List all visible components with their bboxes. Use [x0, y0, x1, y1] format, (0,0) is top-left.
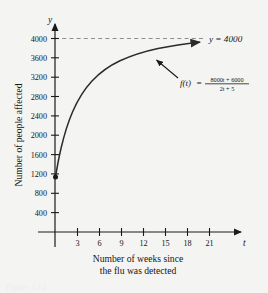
figure-container: 4000 3600 3200 2800 2400 2000 1600 1200 …: [0, 0, 268, 293]
figure-caption: Figure 4.12: [6, 283, 46, 292]
chart-canvas: 4000 3600 3200 2800 2400 2000 1600 1200 …: [0, 0, 268, 293]
y-tick-label-2800: 2800: [31, 93, 47, 102]
y-tick-label-1200: 1200: [31, 170, 47, 179]
y-tick-label-800: 800: [35, 189, 47, 198]
x-axis-title-line2: the flu was detected: [100, 265, 177, 276]
x-tick-label-9: 9: [119, 239, 123, 248]
x-tick-label-21: 21: [205, 239, 213, 248]
initial-point-marker: [53, 174, 58, 179]
y-tick-label-3600: 3600: [31, 54, 47, 63]
asymptote-label: y = 4000: [208, 34, 243, 44]
formula-numerator: 8000t + 6000: [210, 76, 243, 83]
y-tick-label-3200: 3200: [31, 73, 47, 82]
x-tick-label-18: 18: [183, 239, 191, 248]
y-tick-label-2400: 2400: [31, 112, 47, 121]
y-tick-label-2000: 2000: [31, 131, 47, 140]
x-axis-title-line1: Number of weeks since: [93, 253, 183, 264]
y-tick-label-4000: 4000: [31, 35, 47, 44]
x-tick-label-6: 6: [97, 239, 101, 248]
function-name-label: f(t): [180, 78, 191, 88]
y-axis-name: y: [47, 15, 53, 25]
function-callout-arrow: [157, 60, 179, 78]
x-axis-name: t: [243, 238, 246, 248]
x-tick-label-15: 15: [161, 239, 169, 248]
x-tick-label-3: 3: [75, 239, 79, 248]
formula-denominator: 2t + 5: [220, 85, 235, 92]
y-tick-label-1600: 1600: [31, 151, 47, 160]
y-tick-label-400: 400: [35, 209, 47, 218]
x-tick-label-12: 12: [139, 239, 147, 248]
y-axis-title: Number of people affected: [13, 83, 24, 186]
function-curve: [56, 42, 200, 177]
function-equals-sign: =: [196, 78, 202, 88]
